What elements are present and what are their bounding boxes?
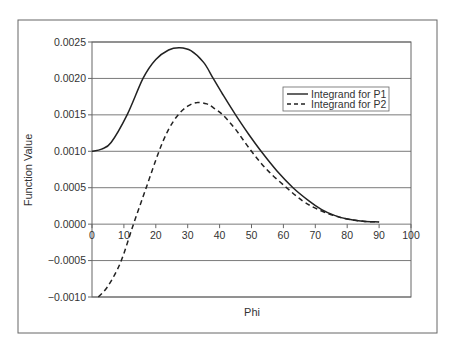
y-tick-label: 0.0000 (54, 218, 86, 230)
y-tick-label: 0.0010 (54, 145, 86, 157)
y-tick-label: 0.0005 (54, 181, 86, 193)
y-tick-label: 0.0020 (54, 72, 86, 84)
x-tick-label: 50 (246, 229, 258, 241)
x-tick-label: 70 (309, 229, 321, 241)
x-tick-label: 60 (278, 229, 290, 241)
x-tick-label: 0 (89, 229, 95, 241)
x-tick-label: 20 (150, 229, 162, 241)
x-tick-label: 100 (402, 229, 420, 241)
y-tick-label: −0.0005 (48, 254, 86, 266)
chart: 0.00250.00200.00150.00100.00050.0000−0.0… (0, 0, 451, 349)
x-tick-label: 30 (182, 229, 194, 241)
y-tick-label: −0.0010 (48, 291, 86, 303)
y-axis-label: Function Value (22, 134, 34, 207)
x-axis-label: Phi (244, 306, 260, 318)
x-tick-label: 90 (373, 229, 385, 241)
y-tick-label: 0.0025 (54, 36, 86, 48)
legend-label-p2: Integrand for P2 (311, 98, 386, 110)
outer-frame (18, 20, 437, 333)
x-tick-label: 80 (341, 229, 353, 241)
y-tick-label: 0.0015 (54, 108, 86, 120)
x-tick-label: 40 (214, 229, 226, 241)
x-tick-label: 10 (118, 229, 130, 241)
legend: Integrand for P1 Integrand for P2 (283, 87, 389, 111)
